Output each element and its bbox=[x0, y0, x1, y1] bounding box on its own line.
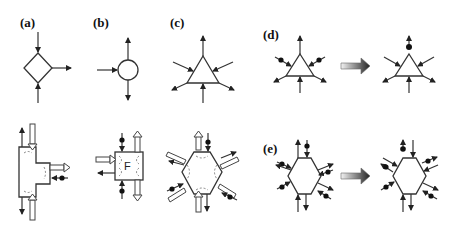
panel-label-b: (b) bbox=[93, 15, 109, 30]
figure-canvas: (a) (b) (c) (d) (e) bbox=[0, 0, 458, 226]
detail-t-block bbox=[19, 124, 70, 220]
panel-a-diamond bbox=[24, 32, 71, 103]
panel-label-a: (a) bbox=[20, 15, 35, 30]
panel-e-after bbox=[381, 140, 438, 212]
panel-e-before bbox=[276, 140, 333, 212]
panel-label-c: (c) bbox=[170, 15, 184, 30]
panel-c-triangle bbox=[172, 36, 234, 103]
panel-label-e: (e) bbox=[263, 141, 277, 156]
panel-label-d: (d) bbox=[263, 27, 279, 42]
f-block-label: F bbox=[124, 160, 131, 172]
detail-hexagon bbox=[166, 131, 239, 212]
panel-d-before bbox=[274, 36, 326, 93]
gradient-arrow-icon bbox=[341, 58, 370, 74]
panel-d-after bbox=[383, 36, 435, 93]
detail-f-square: F bbox=[96, 131, 143, 201]
panel-b-circle bbox=[97, 38, 138, 100]
gradient-arrow-icon bbox=[341, 168, 370, 184]
